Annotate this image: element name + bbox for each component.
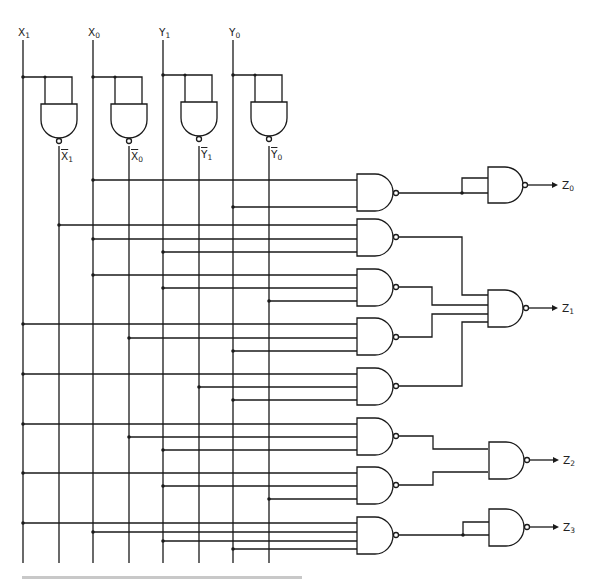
inverter-y0 <box>231 73 287 141</box>
inverter-x1 <box>21 75 77 143</box>
gate-input-wires <box>23 180 357 549</box>
nand-gate-g8 <box>357 517 393 554</box>
nand-gate-g5 <box>357 368 393 405</box>
nand-gate-g3 <box>357 269 393 306</box>
label-x0-bar: X0 <box>131 151 143 164</box>
arrow-z2-icon <box>553 457 559 463</box>
nand-gate-z3 <box>489 509 524 546</box>
nand-multiplier-circuit <box>0 0 597 579</box>
label-y1-bar: Y1 <box>201 149 212 162</box>
nand-gate-z2 <box>489 442 524 479</box>
nand-gate-z0 <box>488 167 523 203</box>
nand-gate-g7 <box>357 467 393 504</box>
first-level-nand-gates <box>357 174 399 554</box>
label-output-z2: Z2 <box>563 455 575 468</box>
second-level-wires <box>398 178 489 537</box>
nand-gate-z1 <box>488 290 523 327</box>
label-output-z3: Z3 <box>563 522 575 535</box>
label-input-x1: X1 <box>18 27 30 40</box>
nand-gate-g6 <box>357 418 393 455</box>
arrow-z3-icon <box>553 524 559 530</box>
inverter-gates <box>21 73 287 143</box>
label-input-x0: X0 <box>88 27 100 40</box>
inverter-x0 <box>91 75 147 143</box>
label-input-y1: Y1 <box>159 27 170 40</box>
label-y0-bar: Y0 <box>271 149 282 162</box>
arrow-z1-icon <box>552 305 558 311</box>
label-output-z0: Z0 <box>562 180 574 193</box>
nand-gate-g1 <box>357 174 393 211</box>
output-nand-gates <box>488 167 559 546</box>
label-input-y0: Y0 <box>229 27 240 40</box>
label-x1-bar: X1 <box>61 151 73 164</box>
nand-gate-g4 <box>357 318 393 355</box>
inverter-y1 <box>161 73 217 141</box>
arrow-z0-icon <box>552 182 558 188</box>
nand-gate-g2 <box>357 219 393 256</box>
label-output-z1: Z1 <box>562 303 574 316</box>
